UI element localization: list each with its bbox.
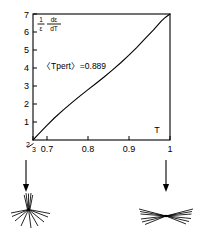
x-axis-label: T	[154, 125, 160, 135]
y-tick-label-2: 2	[24, 99, 29, 109]
right-jet-diagram	[139, 209, 193, 225]
left-jet-diagram	[11, 193, 50, 228]
y-tick-label-7: 7	[24, 10, 29, 20]
data-curve	[33, 14, 170, 140]
x-tick-label-0-7: 0.7	[41, 144, 54, 154]
plot-frame	[33, 14, 170, 140]
x-tick-label-1: 1	[167, 144, 172, 154]
x-tick-two-thirds-denominator: 3	[32, 146, 36, 153]
x-tick-labels: 2 3 0.7 0.8 0.9 1	[26, 141, 173, 154]
y-axis-label-deriv-numerator: dε	[51, 16, 58, 23]
y-tick-label-6: 6	[24, 27, 29, 37]
figure-container: 7 6 5 4 3 2 1 2 3 0.7 0.8 0.9 1	[0, 0, 202, 246]
right-down-arrow	[163, 160, 169, 192]
y-axis-label-deriv-denominator: dT	[50, 25, 58, 32]
y-axis-label: 1 ε dε dT	[38, 16, 62, 32]
y-axis-label-prefix-denominator: ε	[40, 25, 43, 32]
x-axis-ticks	[33, 136, 170, 140]
x-tick-label-0-8: 0.8	[82, 144, 95, 154]
y-tick-label-1: 1	[24, 117, 29, 127]
y-tick-labels: 7 6 5 4 3 2 1	[24, 10, 29, 127]
y-tick-label-3: 3	[24, 81, 29, 91]
y-axis-ticks	[33, 14, 37, 122]
x-tick-label-two-thirds: 2 3	[26, 141, 36, 153]
annotation-tpert: 〈Tpert〉=0.889	[42, 61, 106, 71]
y-tick-label-5: 5	[24, 45, 29, 55]
figure-svg: 7 6 5 4 3 2 1 2 3 0.7 0.8 0.9 1	[0, 0, 202, 246]
x-tick-label-0-9: 0.9	[123, 144, 136, 154]
y-tick-label-4: 4	[24, 63, 29, 73]
y-axis-label-prefix-numerator: 1	[39, 16, 43, 23]
left-down-arrow	[23, 160, 29, 192]
